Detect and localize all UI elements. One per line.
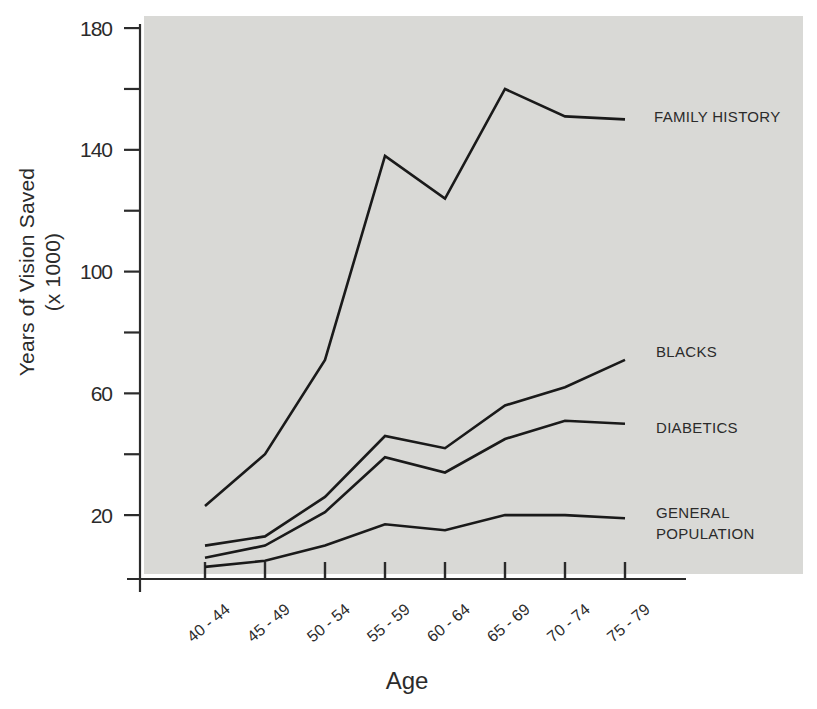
y-tick-label: 20 <box>91 504 113 527</box>
x-tick-label: 70 - 74 <box>544 600 593 645</box>
x-axis-title: Age <box>386 667 429 695</box>
vision-saved-line-chart: 180140100602040 - 4445 - 4950 - 5455 - 5… <box>0 0 817 709</box>
x-tick-label: 75 - 79 <box>604 600 653 645</box>
series-label-diabetics: DIABETICS <box>656 417 738 438</box>
series-label-general-population: GENERAL POPULATION <box>656 502 781 544</box>
y-tick-label: 100 <box>80 260 112 283</box>
x-tick-label: 50 - 54 <box>304 600 353 645</box>
x-tick-label: 55 - 59 <box>364 600 413 645</box>
x-tick-label: 60 - 64 <box>424 600 473 645</box>
y-tick-label: 180 <box>80 17 112 40</box>
y-tick-label: 60 <box>91 382 113 405</box>
x-tick-label: 40 - 44 <box>184 600 233 645</box>
y-tick-label: 140 <box>80 138 112 161</box>
x-tick-label: 65 - 69 <box>484 600 533 645</box>
series-label-family-history: FAMILY HISTORY <box>654 106 780 127</box>
plot-panel <box>144 16 803 574</box>
y-axis-title: Years of Vision Saved (x 1000) <box>14 168 66 377</box>
series-label-blacks: BLACKS <box>656 341 717 362</box>
y-axis-title-line1: Years of Vision Saved <box>14 168 40 377</box>
x-tick-label: 45 - 49 <box>244 600 293 645</box>
y-axis-title-line2: (x 1000) <box>40 168 66 377</box>
